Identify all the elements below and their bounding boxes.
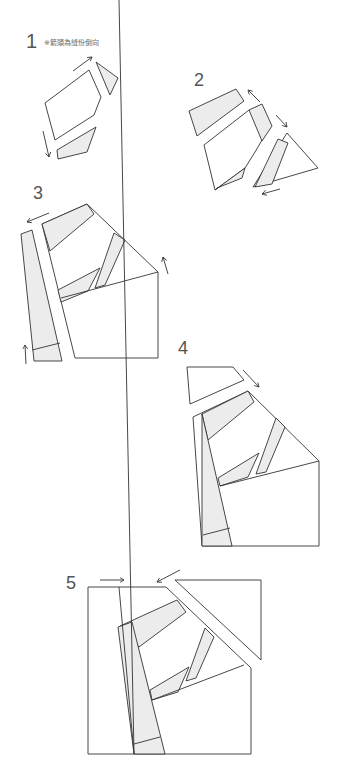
step-2-diagram xyxy=(189,89,318,194)
step-4-diagram xyxy=(187,367,319,546)
arrow-icon xyxy=(43,131,49,157)
arrow-icon xyxy=(27,213,49,222)
step-1-diagram xyxy=(43,57,118,159)
arrow-icon xyxy=(73,57,92,71)
arrow-icon xyxy=(248,90,260,102)
arrow-icon xyxy=(276,115,287,127)
arrow-icon xyxy=(163,257,168,274)
arrow-icon xyxy=(25,345,26,364)
arrow-icon xyxy=(243,370,259,387)
arrow-icon xyxy=(262,189,280,194)
step-3-diagram xyxy=(21,204,168,364)
quilt-assembly-diagram xyxy=(0,0,346,768)
